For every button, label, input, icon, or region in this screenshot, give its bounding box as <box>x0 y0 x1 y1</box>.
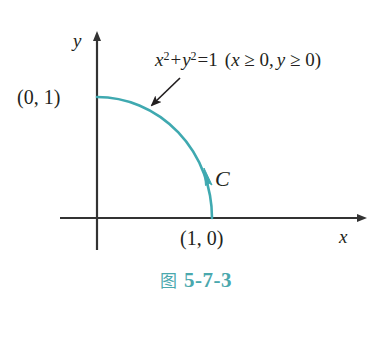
equation-equals: = <box>198 49 209 70</box>
equation-condition-rel-y: ≥ 0 <box>285 49 314 70</box>
point-label-1-0: (1, 0) <box>180 227 223 250</box>
equation-exponent-y: 2 <box>191 49 197 63</box>
curve-equation: x2+y2=1(x ≥ 0,y ≥ 0) <box>154 49 321 71</box>
equation-condition-rel-x: ≥ 0, <box>240 49 274 70</box>
equation-plus: + <box>170 49 181 70</box>
curve-direction-arrowhead <box>204 168 212 186</box>
y-axis-label: y <box>71 30 82 51</box>
quarter-circle-curve <box>97 97 212 218</box>
coordinate-plot: y x (0, 1) (1, 0) C x2+y2=1(x ≥ 0,y ≥ 0) <box>0 0 392 300</box>
equation-pointer-arrow <box>152 78 180 105</box>
figure-glyph-icon: 图 <box>160 273 177 290</box>
equation-condition-var-y: y <box>275 49 286 70</box>
figure-number: 5-7-3 <box>184 268 232 293</box>
equation-condition-close: ) <box>315 49 321 71</box>
figure-container: y x (0, 1) (1, 0) C x2+y2=1(x ≥ 0,y ≥ 0)… <box>0 0 392 339</box>
figure-caption: 图 5-7-3 <box>0 268 392 293</box>
equation-var-y: y <box>180 49 191 70</box>
equation-rhs: 1 <box>208 49 218 70</box>
curve-label-c: C <box>215 166 230 191</box>
point-label-0-1: (0, 1) <box>17 86 60 109</box>
equation-exponent-x: 2 <box>163 49 169 63</box>
x-axis-label: x <box>338 226 348 247</box>
